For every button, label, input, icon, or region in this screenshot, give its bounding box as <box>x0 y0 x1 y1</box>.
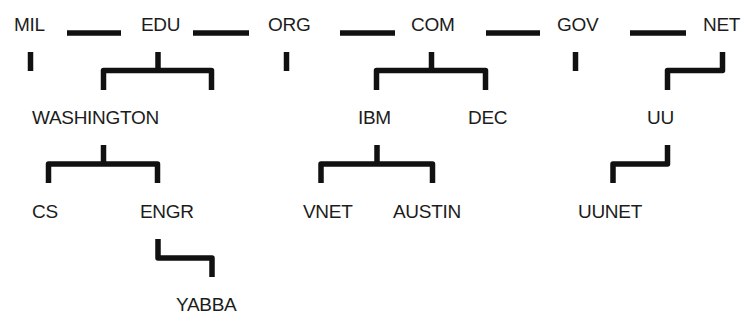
node-austin: AUSTIN <box>393 202 461 221</box>
domain-tree-diagram: MIL EDU ORG COM GOV NET WASHINGTON IBM D… <box>0 0 747 325</box>
node-net: NET <box>703 15 740 34</box>
node-engr: ENGR <box>140 202 194 221</box>
node-uunet: UUNET <box>578 202 642 221</box>
node-uu: UU <box>647 108 674 127</box>
engr-connector <box>158 239 212 277</box>
node-gov: GOV <box>557 15 598 34</box>
edu-bracket <box>104 52 212 90</box>
node-com: COM <box>411 15 454 34</box>
node-org: ORG <box>268 15 310 34</box>
node-washington: WASHINGTON <box>32 108 159 127</box>
node-yabba: YABBA <box>176 295 236 314</box>
tree-connectors <box>0 0 747 325</box>
ibm-bracket <box>321 145 433 183</box>
node-mil: MIL <box>14 15 45 34</box>
washington-bracket <box>49 145 158 183</box>
node-edu: EDU <box>141 15 180 34</box>
uu-connector <box>613 145 668 183</box>
com-bracket <box>377 52 486 90</box>
node-ibm: IBM <box>358 108 391 127</box>
node-cs: CS <box>32 202 58 221</box>
node-vnet: VNET <box>303 202 352 221</box>
node-dec: DEC <box>468 108 507 127</box>
net-connector <box>668 52 723 90</box>
